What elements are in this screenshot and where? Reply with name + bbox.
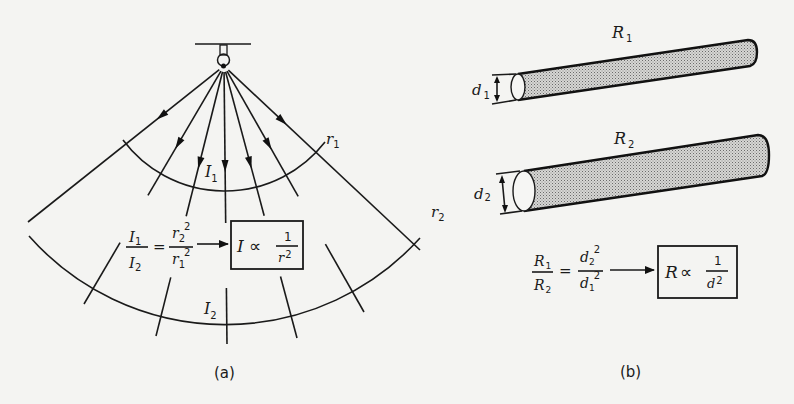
svg-text:I: I [236,236,244,256]
svg-text:1: 1 [714,254,722,268]
result-box-inverse-diameter-square: R ∝ 1 d2 [658,246,737,298]
svg-text:R2: R2 [533,277,551,295]
label-r1: r1 [326,130,340,150]
ray-arrow-icon [245,156,252,168]
svg-text:d1: d1 [472,81,490,101]
wire-cylinder-1 [511,40,757,100]
eq-a-lhs-num: I1 [128,228,141,247]
eq-a-lhs-den: I2 [128,254,141,273]
arc-r2 [29,236,420,325]
label-R2: R2 [613,129,634,150]
label-I2: I2 [203,299,217,321]
panel-a-inverse-square-light: r1 r2 I1 I2 I1 I2 = r22 r12 I ∝ 1 r2 (a) [28,44,445,382]
eq-a-rhs-den: r12 [172,247,190,270]
label-r2: r2 [431,203,445,223]
svg-text:d12: d12 [580,270,600,293]
svg-text:R: R [664,262,678,282]
svg-text:d22: d22 [580,244,600,267]
caption-b: (b) [620,363,641,381]
light-rays [28,70,420,344]
eq-a-rhs-num: r22 [172,221,190,244]
ray-arrow-icon [198,156,205,168]
caption-a: (a) [214,364,235,382]
equation-resistance-ratio: R1 R2 = d22 d12 [532,244,654,295]
svg-text:=: = [559,262,572,280]
svg-text:1: 1 [284,230,292,244]
dimension-d1: d1 [472,74,516,104]
svg-text:d2: d2 [474,185,491,203]
panel-b-wire-resistance: d1 R1 d2 R2 R1 R2 = d22 d12 [472,23,769,381]
ray-arrow-icon [175,137,184,149]
equation-intensity-ratio: I1 I2 = r22 r12 [126,221,228,273]
diagram-canvas: r1 r2 I1 I2 I1 I2 = r22 r12 I ∝ 1 r2 (a) [0,0,794,404]
ray-arrow-icon [263,137,272,149]
label-I1: I1 [204,162,218,184]
label-R1: R1 [611,23,632,44]
svg-text:∝: ∝ [680,262,692,282]
ray-arrow-icon [222,160,229,172]
svg-text:∝: ∝ [249,236,261,256]
svg-text:R1: R1 [533,253,551,271]
wire-cylinder-2 [513,135,769,211]
result-box-inverse-square: I ∝ 1 r2 [231,221,303,269]
eq-a-equals: = [153,238,166,256]
lamp-fixture-icon [195,44,251,69]
